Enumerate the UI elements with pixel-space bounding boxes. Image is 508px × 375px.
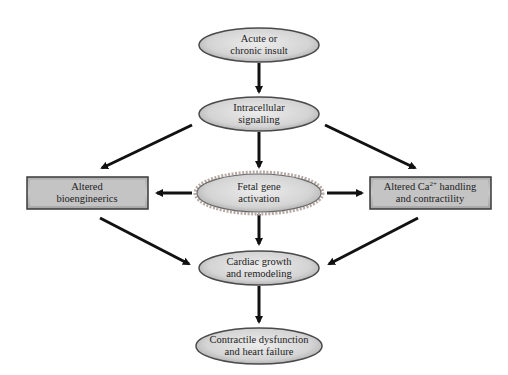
- node-label-line2: and contractility: [396, 193, 465, 204]
- node-label-line1: Intracellular: [233, 102, 285, 113]
- node-label-line2: chronic insult: [230, 45, 288, 56]
- edge-signalling-to-bioenergetics: [102, 125, 192, 168]
- flowchart-diagram: Acute or chronic insult Intracellular si…: [0, 0, 508, 375]
- node-label-line1: Cardiac growth: [226, 256, 292, 267]
- node-label-line1: Contractile dysfunction: [210, 334, 310, 345]
- node-label-line2: bioengineerics: [56, 193, 117, 204]
- edge-bioenergetics-to-remodeling: [100, 218, 189, 264]
- node-label-line1: Fetal gene: [237, 181, 281, 192]
- node-label-line2: and heart failure: [225, 346, 294, 357]
- edge-signalling-to-calcium: [325, 125, 415, 168]
- node-label-line2: activation: [238, 193, 280, 204]
- node-altered-bioenergetics: Altered bioengineerics: [27, 177, 148, 209]
- node-acute-chronic-insult: Acute or chronic insult: [199, 28, 319, 62]
- node-altered-calcium-handling: Altered Ca2+ handling and contractility: [370, 177, 491, 209]
- node-cardiac-growth-remodeling: Cardiac growth and remodeling: [199, 251, 319, 285]
- node-fetal-gene-activation: Fetal gene activation: [195, 172, 323, 214]
- node-label-line1: Acute or: [241, 33, 278, 44]
- node-intracellular-signalling: Intracellular signalling: [199, 97, 319, 131]
- edge-calcium-to-remodeling: [329, 218, 418, 264]
- node-label-line2: signalling: [238, 114, 280, 125]
- node-label-line1: Altered: [71, 181, 103, 192]
- node-label-line2: and remodeling: [226, 268, 292, 279]
- node-contractile-dysfunction-heart-failure: Contractile dysfunction and heart failur…: [196, 328, 322, 364]
